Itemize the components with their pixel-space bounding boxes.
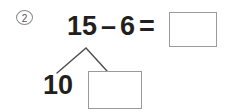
- math-worksheet-problem: 2 15 – 6 = 10: [0, 0, 230, 112]
- number-bond-left-part: 10: [43, 70, 73, 100]
- subtrahend-number: 6: [120, 11, 135, 42]
- minus-operator: –: [97, 11, 120, 42]
- problem-number-marker: 2: [16, 10, 33, 25]
- minuend-number: 15: [67, 11, 97, 42]
- equals-operator: =: [135, 11, 159, 42]
- answer-input-box[interactable]: [169, 12, 217, 47]
- subtraction-equation: 15 – 6 =: [67, 12, 159, 40]
- number-bond-right-part-box[interactable]: [88, 71, 142, 109]
